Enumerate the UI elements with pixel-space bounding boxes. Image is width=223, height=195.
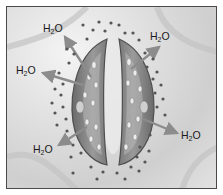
stoma-illustration	[7, 7, 217, 189]
diagram-frame: H2O H2O H2O H2O H2O	[6, 6, 217, 189]
h2o-label-top-left: H2O	[43, 23, 63, 35]
h2o-label-top-right: H2O	[150, 31, 170, 43]
h2o-label-left: H2O	[16, 65, 36, 77]
h2o-label-right: H2O	[181, 130, 201, 142]
h2o-label-bottom-left: H2O	[33, 144, 53, 156]
guard-cell-right	[119, 39, 154, 165]
